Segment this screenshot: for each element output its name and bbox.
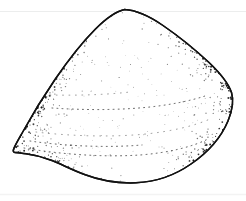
stipple-dot bbox=[196, 59, 197, 60]
stipple-dot bbox=[190, 38, 191, 39]
stipple-dot bbox=[210, 34, 211, 35]
stipple-dot bbox=[219, 140, 221, 142]
stipple-dot bbox=[215, 62, 216, 63]
stipple-dot bbox=[56, 83, 57, 84]
stipple-dot bbox=[122, 12, 123, 13]
stipple-dot bbox=[225, 109, 226, 110]
stipple-dot bbox=[46, 49, 47, 50]
stipple-dot bbox=[201, 74, 202, 75]
stipple-dot bbox=[71, 54, 72, 55]
stipple-dot bbox=[62, 158, 63, 159]
stipple-dot bbox=[176, 159, 177, 160]
stipple-dot bbox=[179, 88, 180, 89]
stipple-dot bbox=[187, 91, 188, 92]
stipple-dot bbox=[168, 35, 169, 36]
stipple-dot bbox=[184, 130, 185, 131]
stipple-dot bbox=[35, 105, 37, 107]
stipple-dot bbox=[60, 122, 61, 123]
stipple-dot bbox=[198, 162, 199, 163]
stipple-dot bbox=[219, 145, 221, 147]
stipple-dot bbox=[12, 129, 13, 130]
stipple-dot bbox=[66, 26, 67, 27]
stipple-dot bbox=[235, 80, 236, 81]
stipple-dot bbox=[212, 153, 213, 154]
stipple-dot bbox=[56, 156, 57, 157]
stipple-dot bbox=[151, 21, 152, 22]
stipple-dot bbox=[222, 89, 223, 90]
stipple-dot bbox=[24, 157, 25, 158]
stipple-dot bbox=[37, 93, 39, 95]
stipple-dot bbox=[213, 105, 214, 106]
stipple-dot bbox=[85, 22, 86, 23]
stipple-dot bbox=[17, 132, 19, 134]
stipple-dot bbox=[214, 93, 215, 94]
stipple-dot bbox=[54, 86, 56, 88]
stipple-dot bbox=[201, 103, 202, 104]
stipple-dot bbox=[42, 96, 43, 97]
stipple-dot bbox=[228, 121, 230, 123]
stipple-dot bbox=[77, 54, 78, 55]
stipple-dot bbox=[175, 30, 176, 31]
stipple-dot bbox=[30, 132, 31, 133]
stipple-dot bbox=[171, 56, 172, 57]
stipple-dot bbox=[94, 64, 95, 65]
stipple-dot bbox=[226, 161, 227, 162]
stipple-dot bbox=[120, 175, 121, 176]
stipple-dot bbox=[208, 159, 209, 160]
stipple-dot bbox=[199, 51, 201, 53]
stipple-dot bbox=[192, 122, 193, 123]
stipple-dot bbox=[53, 104, 54, 105]
stipple-dot bbox=[112, 120, 113, 121]
stipple-dot bbox=[219, 60, 220, 61]
stipple-dot bbox=[100, 151, 101, 152]
stipple-dot bbox=[86, 31, 87, 32]
stipple-dot bbox=[101, 29, 102, 30]
stipple-dot bbox=[38, 88, 39, 89]
stipple-dot bbox=[154, 9, 155, 10]
stipple-dot bbox=[186, 39, 188, 41]
stipple-dot bbox=[197, 35, 198, 36]
stipple-dot bbox=[47, 102, 48, 103]
stipple-dot bbox=[54, 73, 55, 74]
stipple-dot bbox=[83, 22, 84, 23]
stipple-dot bbox=[208, 76, 209, 77]
stipple-dot bbox=[186, 154, 187, 155]
stipple-dot bbox=[203, 46, 204, 47]
stipple-dot bbox=[198, 108, 199, 109]
stipple-dot bbox=[19, 175, 20, 176]
stipple-dot bbox=[82, 171, 83, 172]
stipple-dot bbox=[33, 71, 34, 72]
stipple-dot bbox=[212, 134, 213, 135]
stipple-dot bbox=[227, 138, 228, 139]
stipple-dot bbox=[213, 29, 214, 30]
stipple-dot bbox=[106, 27, 107, 28]
stipple-dot bbox=[232, 52, 233, 53]
stipple-dot bbox=[210, 69, 212, 71]
stipple-dot bbox=[40, 129, 41, 130]
stipple-dot bbox=[36, 87, 37, 88]
stipple-dot bbox=[51, 73, 52, 74]
stipple-dot bbox=[213, 49, 214, 50]
stipple-dot bbox=[195, 106, 196, 107]
stipple-dot bbox=[189, 160, 191, 162]
stipple-dot bbox=[118, 77, 119, 78]
stipple-dot bbox=[205, 170, 206, 171]
stipple-dot bbox=[197, 68, 198, 69]
stipple-dot bbox=[35, 112, 36, 113]
stipple-dot bbox=[42, 106, 44, 108]
stipple-dot bbox=[90, 17, 91, 18]
stipple-dot bbox=[175, 45, 176, 46]
stipple-dot bbox=[184, 120, 185, 121]
stipple-dot bbox=[110, 154, 111, 155]
stipple-dot bbox=[143, 23, 144, 24]
stipple-dot bbox=[43, 136, 44, 137]
stipple-dot bbox=[201, 137, 202, 138]
stipple-dot bbox=[220, 109, 221, 110]
stipple-dot bbox=[197, 72, 198, 73]
stipple-dot bbox=[215, 166, 216, 167]
stipple-dot bbox=[59, 160, 60, 161]
stipple-dot bbox=[231, 121, 232, 122]
stipple-dot bbox=[133, 115, 134, 116]
stipple-dot bbox=[39, 95, 41, 97]
stipple-dot bbox=[44, 64, 45, 65]
